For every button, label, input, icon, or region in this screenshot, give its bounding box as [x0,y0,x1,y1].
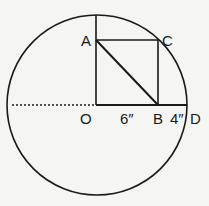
label-B: B [153,110,163,127]
label-BD-length: 4″ [170,110,184,127]
label-O: O [80,110,92,127]
diagram-svg: A C O 6″ B 4″ D [0,0,209,206]
circle-rectangle-diagram: A C O 6″ B 4″ D [0,0,209,206]
label-C: C [162,32,173,49]
label-A: A [81,32,91,49]
label-D: D [190,110,201,127]
label-OB-length: 6″ [120,110,134,127]
diagonal-AB [96,40,158,105]
